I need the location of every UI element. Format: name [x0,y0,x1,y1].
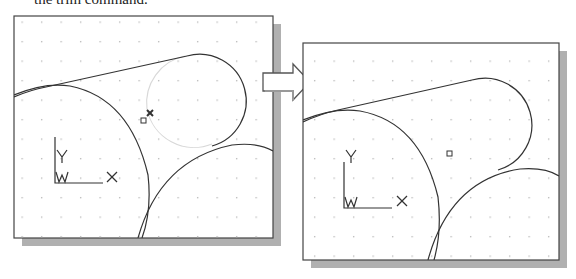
after-viewport [303,43,567,268]
grid-dots [14,16,273,238]
before-viewport [14,16,281,246]
grid-dots [303,43,559,260]
